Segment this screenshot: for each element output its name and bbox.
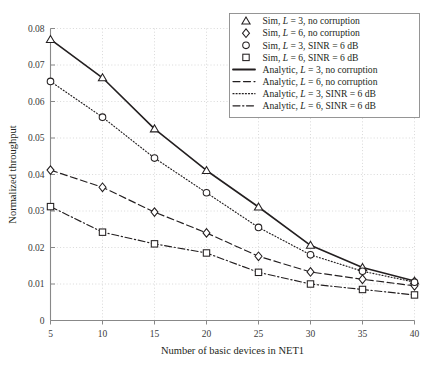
data-point-circle <box>47 78 54 85</box>
y-tick-label: 0.08 <box>28 24 45 34</box>
data-point-circle <box>307 252 314 259</box>
y-tick-label: 0.06 <box>28 97 45 107</box>
legend-label: Sim, L = 6, SINR = 6 dB <box>263 52 359 63</box>
x-tick-label: 20 <box>202 329 212 339</box>
legend-label: Sim, L = 6, no corruption <box>263 27 361 38</box>
legend-label: Analytic, L = 6, SINR = 6 dB <box>263 100 376 111</box>
y-tick-label: 0.07 <box>28 60 45 70</box>
y-tick-label: 0 <box>40 316 45 326</box>
data-point-square <box>243 54 249 60</box>
data-point-square <box>151 241 157 247</box>
x-tick-label: 30 <box>306 329 316 339</box>
x-axis-title: Number of basic devices in NET1 <box>161 345 304 356</box>
throughput-line-chart: 51015202530354000.010.020.030.040.050.06… <box>0 0 431 373</box>
data-point-square <box>203 250 209 256</box>
legend-label: Sim, L = 3, no corruption <box>263 15 361 26</box>
legend-label: Analytic, L = 3, SINR = 6 dB <box>263 88 376 99</box>
chart-legend: Sim, L = 3, no corruptionSim, L = 6, no … <box>230 14 420 118</box>
data-point-circle <box>203 189 210 196</box>
legend-label: Analytic, L = 3, no corruption <box>263 64 378 75</box>
x-tick-label: 25 <box>254 329 264 339</box>
data-point-square <box>255 269 261 275</box>
data-point-circle <box>151 155 158 162</box>
y-tick-label: 0.02 <box>28 243 45 253</box>
y-axis-title: Normalized throughput <box>7 125 18 223</box>
y-tick-label: 0.05 <box>28 133 45 143</box>
x-tick-label: 40 <box>410 329 420 339</box>
data-point-circle <box>359 268 366 275</box>
x-tick-label: 15 <box>150 329 160 339</box>
x-tick-label: 10 <box>98 329 108 339</box>
data-point-square <box>359 286 365 292</box>
data-point-circle <box>99 114 106 121</box>
data-point-square <box>307 281 313 287</box>
data-point-circle <box>243 42 250 49</box>
legend-label: Analytic, L = 6, no corruption <box>263 76 378 87</box>
data-point-square <box>99 229 105 235</box>
data-point-square <box>411 292 417 298</box>
data-point-circle <box>255 224 262 231</box>
x-tick-label: 5 <box>48 329 53 339</box>
y-tick-label: 0.01 <box>28 279 45 289</box>
y-tick-label: 0.04 <box>28 170 45 180</box>
data-point-circle <box>411 279 418 286</box>
y-tick-label: 0.03 <box>28 206 45 216</box>
x-tick-label: 35 <box>358 329 368 339</box>
legend-label: Sim, L = 3, SINR = 6 dB <box>263 40 359 51</box>
chart-figure: 51015202530354000.010.020.030.040.050.06… <box>0 0 431 373</box>
data-point-square <box>47 203 53 209</box>
